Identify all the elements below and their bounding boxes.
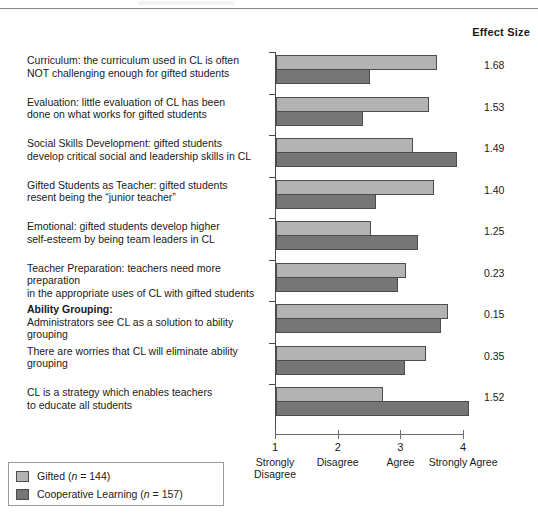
effect-size-value: 1.53	[484, 101, 530, 113]
bar-gifted	[276, 55, 437, 70]
row-label: Social Skills Development: gifted studen…	[27, 137, 265, 162]
row-label-line: resent being the “junior teacher”	[27, 191, 176, 203]
category-tick	[269, 218, 276, 219]
bar-gifted	[276, 221, 371, 236]
row-label: Teacher Preparation: teachers need more …	[27, 262, 265, 300]
row-label-line: to educate all students	[27, 399, 132, 411]
x-axis-tick-label: 2	[318, 441, 358, 453]
row-label-line: Teacher Preparation: teachers need more …	[27, 262, 221, 287]
category-tick	[269, 52, 276, 53]
legend-swatch-gifted	[16, 471, 29, 482]
row-label-line: done on what works for gifted students	[27, 108, 207, 120]
category-tick	[269, 260, 276, 261]
row-label: Ability Grouping:Administrators see CL a…	[27, 303, 265, 341]
bar-gifted	[276, 387, 383, 402]
x-axis-tick-caption: Strongly Agree	[425, 456, 501, 468]
row-label: Curriculum: the curriculum used in CL is…	[27, 54, 265, 79]
row-label-line: Curriculum: the curriculum used in CL is…	[27, 54, 239, 66]
row-label-line: There are worries that CL will eliminate…	[27, 345, 238, 370]
x-axis-tick-label: 4	[443, 441, 483, 453]
x-axis-tick-label: 1	[255, 441, 295, 453]
row-label-line: develop critical social and leadership s…	[27, 150, 251, 162]
category-tick	[269, 343, 276, 344]
row-label-line: in the appropriate uses of CL with gifte…	[27, 287, 254, 299]
row-label: CL is a strategy which enables teacherst…	[27, 386, 265, 411]
legend-item: Cooperative Learning (n = 157)	[16, 486, 216, 502]
bar-gifted	[276, 138, 413, 153]
bar-cooperative-learning	[276, 69, 370, 84]
bar-gifted	[276, 97, 429, 112]
effect-size-value: 1.25	[484, 225, 530, 237]
bar-gifted	[276, 180, 434, 195]
row-label-bold-lead: Ability Grouping:	[27, 303, 265, 316]
effect-size-value: 0.35	[484, 350, 530, 362]
bar-chart: 1Strongly Disagree2Disagree3Agree4Strong…	[0, 0, 538, 520]
row-label: Gifted Students as Teacher: gifted stude…	[27, 179, 265, 204]
effect-size-value: 1.40	[484, 184, 530, 196]
x-axis-line	[275, 434, 464, 435]
row-label-line: Administrators see CL as a solution to a…	[27, 316, 233, 341]
x-axis-tick	[400, 430, 401, 439]
effect-size-value: 1.52	[484, 391, 530, 403]
bar-cooperative-learning	[276, 194, 376, 209]
row-label-line: NOT challenging enough for gifted studen…	[27, 67, 229, 79]
chart-legend: Gifted (n = 144)Cooperative Learning (n …	[8, 462, 224, 506]
row-label-line: Social Skills Development: gifted studen…	[27, 137, 222, 149]
row-label: There are worries that CL will eliminate…	[27, 345, 265, 370]
bar-cooperative-learning	[276, 318, 441, 333]
category-tick	[269, 177, 276, 178]
row-label-line: Gifted Students as Teacher: gifted stude…	[27, 179, 228, 191]
row-label: Emotional: gifted students develop highe…	[27, 220, 265, 245]
bar-gifted	[276, 346, 426, 361]
row-label-line: CL is a strategy which enables teachers	[27, 386, 212, 398]
category-tick	[269, 94, 276, 95]
bar-gifted	[276, 263, 406, 278]
x-axis-tick	[275, 430, 276, 439]
row-label-line: self-esteem by being team leaders in CL	[27, 233, 215, 245]
bar-gifted	[276, 304, 448, 319]
bar-cooperative-learning	[276, 360, 405, 375]
row-label-line: Evaluation: little evaluation of CL has …	[27, 96, 225, 108]
legend-label: Cooperative Learning (n = 157)	[37, 488, 183, 500]
row-label: Evaluation: little evaluation of CL has …	[27, 96, 265, 121]
effect-size-value: 1.68	[484, 59, 530, 71]
bar-cooperative-learning	[276, 235, 418, 250]
x-axis-tick	[463, 430, 464, 439]
legend-swatch-cooperative-learning	[16, 489, 29, 500]
bar-cooperative-learning	[276, 111, 363, 126]
bar-cooperative-learning	[276, 401, 469, 416]
bar-cooperative-learning	[276, 277, 398, 292]
legend-label: Gifted (n = 144)	[37, 470, 110, 482]
effect-size-value: 1.49	[484, 142, 530, 154]
category-tick	[269, 135, 276, 136]
x-axis-tick-label: 3	[380, 441, 420, 453]
category-tick	[269, 301, 276, 302]
effect-size-value: 0.23	[484, 267, 530, 279]
legend-item: Gifted (n = 144)	[16, 468, 216, 484]
bar-cooperative-learning	[276, 152, 457, 167]
row-label-line: Emotional: gifted students develop highe…	[27, 220, 220, 232]
x-axis-tick	[338, 430, 339, 439]
category-tick	[269, 384, 276, 385]
effect-size-value: 0.15	[484, 308, 530, 320]
